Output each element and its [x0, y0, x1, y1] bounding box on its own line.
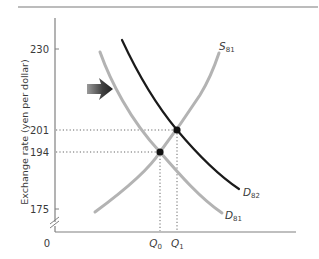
equilibrium-point-initial [156, 148, 163, 155]
y-axis-title: Exchange rate (yen per dollar) [19, 59, 30, 204]
y-tick-201: 201 [30, 125, 49, 136]
demand-curve-d82 [122, 40, 239, 189]
shift-arrow-icon [87, 78, 113, 100]
demand-curve-d81 [100, 52, 222, 213]
y-tick-175: 175 [30, 204, 49, 215]
supply-curve-s81 [95, 53, 219, 212]
y-tick-230: 230 [30, 44, 49, 55]
x-tick-q0: Q0 [149, 237, 162, 251]
x-tick-q1: Q1 [171, 237, 184, 251]
label-d81: D81 [225, 209, 242, 223]
equilibrium-point-new [173, 126, 180, 133]
chart-figure: Exchange rate (yen per dollar) 230 201 1… [0, 0, 319, 259]
guide-lines [56, 130, 177, 231]
y-tick-194: 194 [30, 147, 49, 158]
label-d82: D82 [243, 186, 260, 200]
origin-label: 0 [44, 238, 50, 249]
label-s81: S81 [219, 40, 235, 54]
